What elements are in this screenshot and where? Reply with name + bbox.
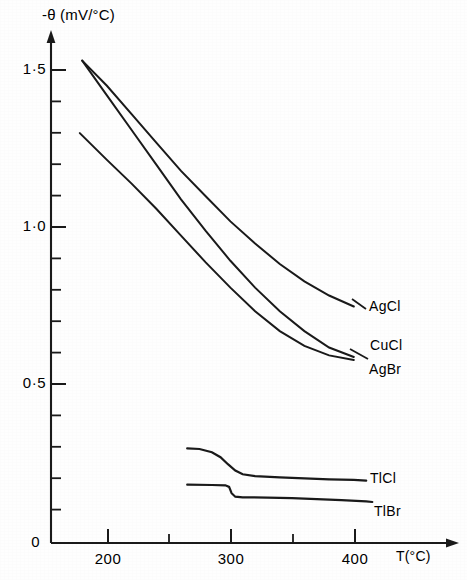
chart-plot-area (0, 0, 467, 580)
leader-agcl (352, 299, 366, 309)
figure-panel: -θ (mV/°C) T(°C) 1·5 1·0 0·5 0 200 300 4… (0, 0, 467, 580)
x-tick-label-400: 400 (325, 550, 385, 567)
y-tick-label-0: 0 (0, 533, 40, 550)
curve-tlbr-line (187, 485, 372, 502)
curve-label-agcl: AgCl (369, 298, 401, 314)
label-leader-lines (350, 299, 368, 359)
y-tick-label-1-5: 1·5 (0, 60, 46, 77)
y-axis (47, 30, 56, 543)
curve-tlcl-line (187, 448, 366, 480)
y-major-ticks (51, 70, 66, 384)
curve-label-tlcl: TlCl (370, 470, 396, 486)
curve-agcl (82, 61, 263, 222)
x-axis (51, 539, 459, 548)
curve-label-tlbr: TlBr (374, 503, 401, 519)
x-major-ticks (108, 529, 355, 543)
y-axis-title-text: -θ (mV/°C) (42, 6, 115, 23)
y-axis-title: -θ (mV/°C) (42, 6, 115, 23)
curve-label-cucl: CuCl (370, 337, 402, 353)
x-axis-arrowhead (446, 539, 459, 548)
y-minor-ticks (51, 101, 61, 509)
y-axis-arrowhead (47, 30, 56, 43)
x-axis-title-text: T(°C) (396, 548, 431, 564)
y-tick-label-0-5: 0·5 (0, 374, 46, 391)
x-tick-label-200: 200 (78, 550, 138, 567)
curve-agbr-line (80, 133, 354, 360)
x-axis-title: T(°C) (396, 548, 431, 564)
x-tick-label-300: 300 (201, 550, 261, 567)
curve-label-agbr: AgBr (369, 361, 401, 377)
curve-agcl-line (82, 61, 354, 307)
y-tick-label-1-0: 1·0 (0, 217, 46, 234)
